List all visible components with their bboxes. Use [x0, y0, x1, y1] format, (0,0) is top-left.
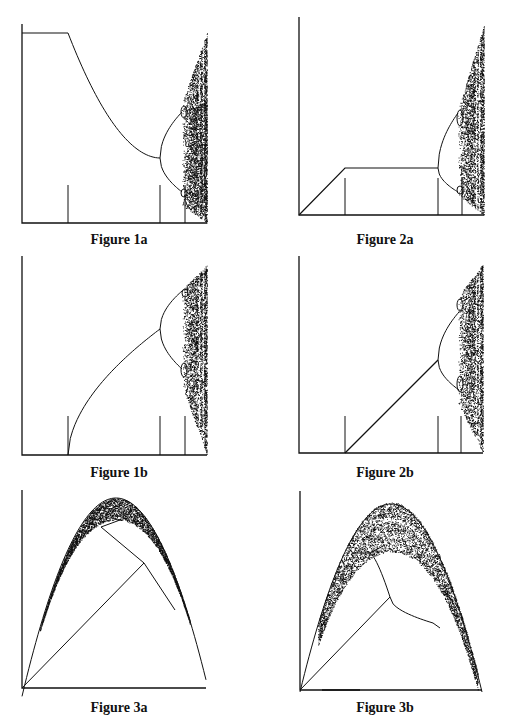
figure-1b-caption: Figure 1b — [90, 465, 148, 481]
figure-1a-caption: Figure 1a — [91, 232, 148, 248]
figure-3b-caption: Figure 3b — [356, 700, 414, 716]
figure-2b-plot — [299, 256, 484, 453]
figure-canvas — [0, 0, 505, 728]
figure-1b-plot — [22, 256, 208, 455]
figure-3b-plot — [300, 491, 482, 692]
figure-1a-plot — [22, 24, 208, 224]
figure-3a-caption: Figure 3a — [91, 700, 148, 716]
figure-3a-plot — [22, 490, 206, 696]
figure-2a-caption: Figure 2a — [357, 232, 414, 248]
figure-2a-plot — [299, 17, 485, 216]
figure-2b-caption: Figure 2b — [356, 465, 414, 481]
